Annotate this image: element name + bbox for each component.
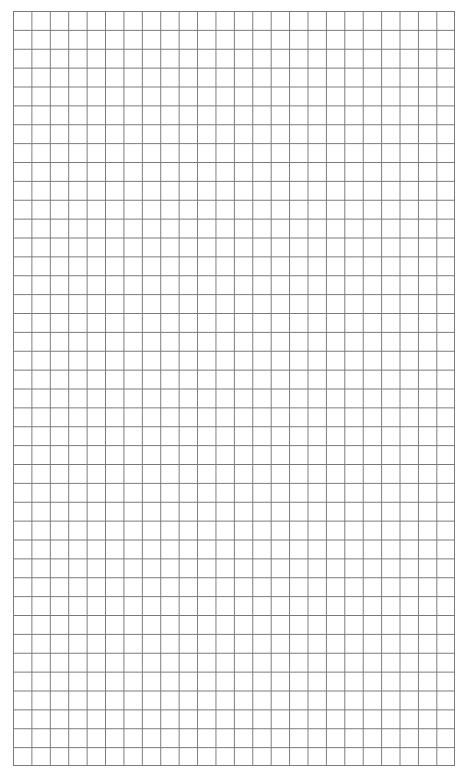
graph-paper-grid	[13, 11, 455, 766]
